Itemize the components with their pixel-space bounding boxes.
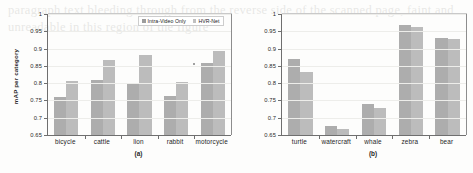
chart-panel-b: 0.650.70.750.80.850.90.951 turtlewatercr…: [237, 0, 473, 173]
x-axis-label-whale: whale: [355, 138, 392, 145]
legend-swatch-icon-hvr-net-a: [193, 19, 197, 23]
y-axis-label-0.65-a: 0.65: [30, 132, 42, 138]
gridline-0.85-b: [282, 66, 466, 67]
y-axis-tick-0.7-b: [278, 118, 282, 119]
x-axis-label-turtle: turtle: [281, 138, 318, 145]
y-axis-label-0.95-a: 0.95: [30, 28, 42, 34]
gridline-0.85-a: [48, 66, 231, 67]
y-axis-tick-0.9-a: [44, 49, 48, 50]
y-axis-tick-0.95-b: [278, 31, 282, 32]
x-axis-label-bear: bear: [428, 138, 465, 145]
y-axis-label-1-b: 1: [273, 11, 276, 17]
y-axis-tick-1-b: [278, 14, 282, 15]
bar-motorcycle-hvr-net: [213, 51, 225, 135]
bar-watercraft-hvr-net: [337, 129, 349, 135]
plot-area-a: 0.650.70.750.80.850.90.951: [47, 14, 231, 136]
y-axis-tick-0.7-a: [44, 118, 48, 119]
gridline-1-b: [282, 14, 466, 15]
bar-cattle-intra-video-only: [91, 80, 103, 135]
bar-rabbit-intra-video-only: [164, 96, 176, 135]
gridline-0.95-b: [282, 31, 466, 32]
plot-right-rule-a: [231, 14, 232, 135]
bar-rabbit-hvr-net: [176, 82, 188, 135]
bar-lion-intra-video-only: [127, 83, 139, 135]
legend-swatch-icon-intra-video-only-a: [142, 19, 146, 23]
x-axis-label-rabbit: rabbit: [157, 138, 194, 145]
gridline-0.9-b: [282, 49, 466, 50]
bar-bear-intra-video-only: [435, 38, 447, 135]
x-axis-labels-a: bicyclecattlelionrabbitmotorcycle: [47, 138, 230, 145]
legend-a: Intra-Video Only HVR-Net: [138, 16, 224, 26]
gridline-0.95-a: [48, 31, 231, 32]
y-axis-tick-0.85-a: [44, 66, 48, 67]
y-axis-title-a-text: mAP per category: [13, 48, 20, 103]
bar-bear-hvr-net: [448, 39, 460, 135]
bar-bicycle-intra-video-only: [54, 97, 66, 135]
y-axis-tick-0.75-b: [278, 100, 282, 101]
gridline-0.7-b: [282, 118, 466, 119]
y-axis-tick-0.85-b: [278, 66, 282, 67]
y-axis-tick-0.8-a: [44, 83, 48, 84]
bar-whale-hvr-net: [374, 108, 386, 135]
y-axis-label-0.8-a: 0.8: [34, 80, 42, 86]
y-axis-tick-0.75-a: [44, 100, 48, 101]
gridline-0.75-b: [282, 100, 466, 101]
y-axis-label-0.8-b: 0.8: [268, 80, 276, 86]
x-axis-label-motorcycle: motorcycle: [193, 138, 230, 145]
y-axis-label-0.9-a: 0.9: [34, 46, 42, 52]
chart-panel-a: mAP per category 0.650.70.750.80.850.90.…: [0, 0, 237, 173]
legend-label-hvr-net-a: HVR-Net: [198, 18, 219, 24]
scan-speck: [193, 63, 195, 65]
gridline-0.8-a: [48, 83, 231, 84]
y-axis-label-0.7-a: 0.7: [34, 115, 42, 121]
y-axis-tick-0.8-b: [278, 83, 282, 84]
plot-right-rule-b: [466, 14, 467, 135]
y-axis-tick-1-a: [44, 14, 48, 15]
y-axis-label-0.75-b: 0.75: [264, 97, 276, 103]
y-axis-title-a: mAP per category: [9, 36, 23, 116]
y-axis-label-1-a: 1: [39, 11, 42, 17]
x-axis-label-bicycle: bicycle: [47, 138, 84, 145]
legend-label-intra-video-only-a: Intra-Video Only: [148, 18, 186, 24]
bar-turtle-hvr-net: [300, 72, 312, 135]
bar-bicycle-hvr-net: [66, 81, 78, 135]
y-axis-label-0.75-a: 0.75: [30, 97, 42, 103]
legend-item-hvr-net-a: HVR-Net: [193, 18, 220, 24]
bar-watercraft-intra-video-only: [325, 126, 337, 135]
y-axis-tick-0.65-b: [278, 135, 282, 136]
gridline-0.9-a: [48, 49, 231, 50]
gridline-0.7-a: [48, 118, 231, 119]
bar-whale-intra-video-only: [362, 104, 374, 135]
bar-lion-hvr-net: [139, 55, 151, 135]
gridline-1-a: [48, 14, 231, 15]
y-axis-label-0.85-b: 0.85: [264, 63, 276, 69]
bar-motorcycle-intra-video-only: [201, 63, 213, 135]
bar-zebra-hvr-net: [411, 27, 423, 135]
x-axis-label-zebra: zebra: [391, 138, 428, 145]
x-axis-label-lion: lion: [120, 138, 157, 145]
y-axis-label-0.7-b: 0.7: [268, 115, 276, 121]
y-axis-label-0.95-b: 0.95: [264, 28, 276, 34]
y-axis-label-0.9-b: 0.9: [268, 46, 276, 52]
y-axis-tick-0.65-a: [44, 135, 48, 136]
x-axis-labels-b: turtlewatercraftwhalezebrabear: [281, 138, 465, 145]
y-axis-label-0.85-a: 0.85: [30, 63, 42, 69]
gridline-0.8-b: [282, 83, 466, 84]
y-axis-tick-0.95-a: [44, 31, 48, 32]
legend-item-intra-video-only-a: Intra-Video Only: [142, 18, 186, 24]
panel-caption-a: (a): [47, 150, 230, 157]
panel-caption-b: (b): [281, 150, 465, 157]
figure-root: mAP per category 0.650.70.750.80.850.90.…: [0, 0, 473, 173]
bar-cattle-hvr-net: [103, 60, 115, 135]
plot-area-b: 0.650.70.750.80.850.90.951: [281, 14, 466, 136]
y-axis-label-0.65-b: 0.65: [264, 132, 276, 138]
bar-turtle-intra-video-only: [288, 59, 300, 135]
gridline-0.75-a: [48, 100, 231, 101]
x-axis-label-watercraft: watercraft: [318, 138, 355, 145]
x-axis-label-cattle: cattle: [84, 138, 121, 145]
y-axis-tick-0.9-b: [278, 49, 282, 50]
